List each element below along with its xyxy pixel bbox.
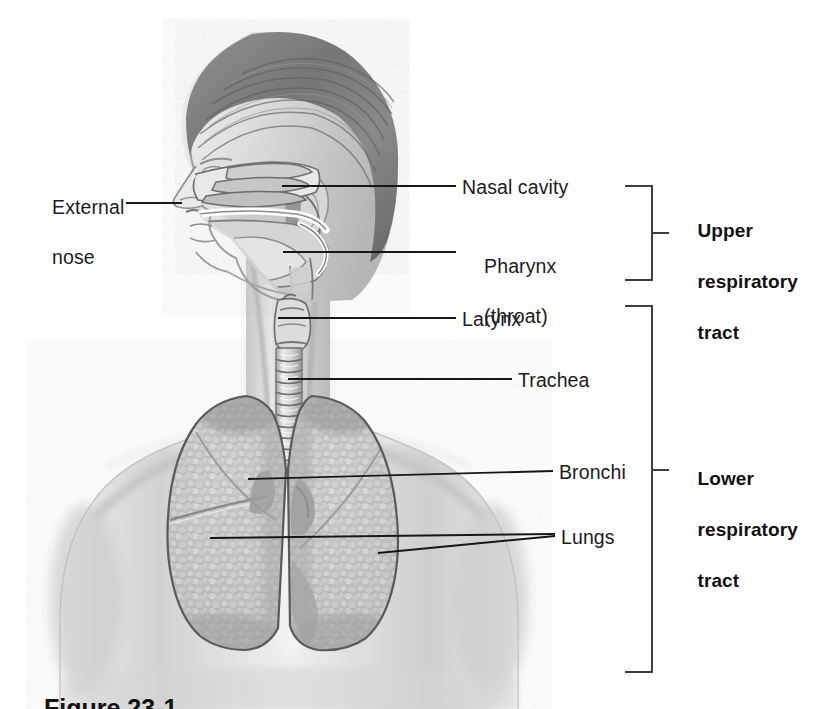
label-pharynx-line1: Pharynx [484, 255, 556, 277]
lower-tract-line3: tract [698, 570, 740, 591]
respiratory-system-figure: External nose Nasal cavity Pharynx (thro… [0, 0, 822, 709]
label-bronchi: Bronchi [559, 460, 626, 485]
head-profile [173, 32, 398, 320]
label-larynx: Larynx [462, 307, 521, 332]
label-nasal-cavity: Nasal cavity [462, 175, 568, 200]
label-lungs: Lungs [561, 525, 615, 550]
lower-tract-line1: Lower [698, 468, 754, 489]
lower-tract-line2: respiratory [698, 519, 798, 540]
bracket-lower-respiratory-tract [625, 305, 653, 673]
upper-tract-line1: Upper [698, 220, 753, 241]
label-pharynx: Pharynx (throat) [462, 229, 556, 354]
label-lower-respiratory-tract: Lower respiratory tract [676, 440, 798, 619]
label-external-nose: External nose [30, 170, 124, 295]
bracket-upper-respiratory-tract [625, 185, 653, 281]
label-upper-respiratory-tract: Upper respiratory tract [676, 192, 798, 371]
larynx [274, 295, 310, 353]
upper-tract-line3: tract [698, 322, 740, 343]
label-external-nose-line1: External [52, 196, 124, 218]
upper-tract-line2: respiratory [698, 271, 798, 292]
figure-caption: Figure 23-1 [44, 694, 344, 709]
label-trachea: Trachea [518, 368, 590, 393]
label-external-nose-line2: nose [52, 246, 95, 268]
